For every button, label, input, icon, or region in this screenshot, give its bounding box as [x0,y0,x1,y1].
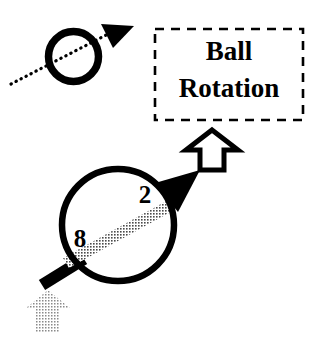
ball-rotation-figure: Ball Rotation 2 8 [0,0,321,361]
clock-label-8: 8 [74,225,87,252]
diagram-canvas: Ball Rotation 2 8 [0,0,321,361]
clock-label-2: 2 [139,181,152,208]
main-ball-group: 2 8 [42,169,200,285]
ball-rotation-legend-group: Ball Rotation [155,29,303,120]
legend-line-1: Ball [206,36,253,66]
legend-line-2: Rotation [179,73,280,103]
ball-translation-arrow-icon [186,130,238,170]
ball-translation-arrow-group [186,130,238,170]
reference-ball-group [11,24,134,84]
approach-direction-arrow-icon [26,290,70,333]
approach-direction-arrow-group [26,290,70,333]
reference-ball-circle-icon [49,32,99,82]
